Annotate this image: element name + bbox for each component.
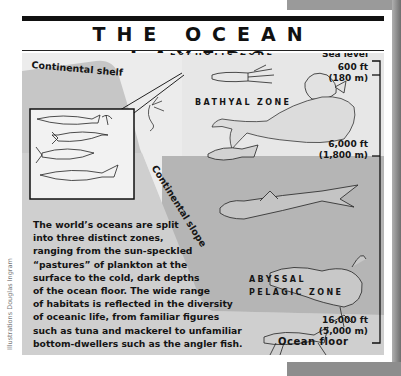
label-abyssal-zone-line1: ABYSSAL xyxy=(249,275,306,284)
description-line: of oceanic life, from familiar figures xyxy=(33,310,233,323)
illustration-credit: Illustrations Douglas Ingram xyxy=(6,258,14,350)
label-abyssal-zone-line2: PELAGIC ZONE xyxy=(249,288,343,297)
background-strip-bottom xyxy=(287,362,401,376)
depth-16000-ft: 16,000 ft xyxy=(322,315,368,326)
description-line: The world’s oceans are split xyxy=(33,218,233,231)
depth-6000-ft: 6,000 ft xyxy=(328,139,368,150)
description-paragraph: The world’s oceans are split into three … xyxy=(33,218,233,350)
description-line: such as tuna and mackerel to unfamiliar xyxy=(33,324,233,337)
description-line: ranging from the sun-speckled xyxy=(33,244,233,257)
description-line: surface to the cold, dark depths xyxy=(33,271,233,284)
description-line: of the ocean floor. The wide range xyxy=(33,284,233,297)
label-ocean-floor: Ocean floor xyxy=(278,336,349,347)
ocean-diagram: Continental shelf EUPHOTIC ZONE BATHYAL … xyxy=(22,53,384,355)
title-rule xyxy=(22,50,384,51)
description-line: bottom-dwellers such as the angler fish. xyxy=(33,337,233,350)
description-line: “pastures” of plankton at the xyxy=(33,258,233,271)
label-euphotic-zone: EUPHOTIC ZONE xyxy=(170,53,274,57)
depth-1800-m: (1,800 m) xyxy=(319,150,368,161)
label-bathyal-zone: BATHYAL ZONE xyxy=(195,98,291,107)
depth-180-m: (180 m) xyxy=(328,73,368,84)
depth-600-ft: 600 ft xyxy=(338,62,368,73)
background-strip-right xyxy=(392,0,401,376)
depth-sea-level: Sea level xyxy=(322,53,368,60)
description-line: of habitats is reflected in the diversit… xyxy=(33,297,233,310)
description-line: into three distinct zones, xyxy=(33,231,233,244)
top-rule xyxy=(22,16,384,21)
depth-5000-m: (5,000 m) xyxy=(319,326,368,337)
